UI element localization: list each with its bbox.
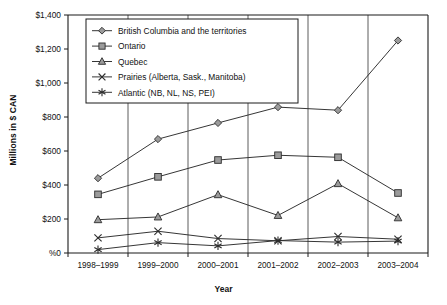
x-tick-label: 1999–2000	[138, 261, 179, 270]
legend-label: Quebec	[118, 57, 147, 67]
data-point-square	[395, 190, 402, 197]
data-point-triangle	[214, 191, 222, 198]
legend-label: British Columbia and the territories	[118, 26, 246, 36]
data-point-diamond	[214, 119, 221, 126]
x-axis-title: Year	[0, 284, 447, 294]
data-point-square	[155, 174, 162, 181]
data-point-triangle	[334, 180, 342, 187]
y-tick-label: $200	[42, 214, 61, 224]
y-tick-label: $1,000	[35, 78, 61, 88]
data-point-square	[335, 154, 342, 161]
y-tick-label: $1,200	[35, 44, 61, 54]
y-axis-ticks: %0$200$400$600$800$1,000$1,200$1,400	[35, 10, 68, 258]
legend: British Columbia and the territoriesOnta…	[86, 19, 298, 103]
legend-label: Prairies (Alberta, Sask., Manitoba)	[118, 72, 246, 82]
x-tick-label: 2000–2001	[198, 261, 239, 270]
x-tick-label: 2001–2002	[258, 261, 299, 270]
data-point-diamond	[154, 136, 161, 143]
x-axis-ticks: 1998–19991999–20002000–20012001–20022002…	[68, 253, 428, 270]
y-tick-label: $800	[42, 112, 61, 122]
plot-area: %0$200$400$600$800$1,000$1,200$1,400 199…	[0, 0, 447, 305]
y-tick-label: $1,400	[35, 10, 61, 20]
legend-label: Ontario	[118, 41, 146, 51]
data-point-diamond	[274, 104, 281, 111]
x-tick-label: 2002–2003	[318, 261, 359, 270]
y-tick-label: $600	[42, 146, 61, 156]
data-point-square	[95, 191, 102, 198]
data-point-diamond	[94, 175, 101, 182]
line-chart: Millions in $ CAN %0$200$400$600$800$1,0…	[0, 0, 447, 305]
data-point-triangle	[394, 214, 402, 221]
y-tick-label: %0	[49, 248, 61, 258]
legend-label: Atlantic (NB, NL, NS, PEI)	[118, 88, 215, 98]
y-tick-label: $400	[42, 180, 61, 190]
data-point-square	[215, 157, 222, 164]
x-tick-label: 1998–1999	[78, 261, 119, 270]
data-point-square	[99, 43, 105, 49]
x-tick-label: 2003–2004	[378, 261, 419, 270]
data-point-square	[275, 152, 282, 159]
